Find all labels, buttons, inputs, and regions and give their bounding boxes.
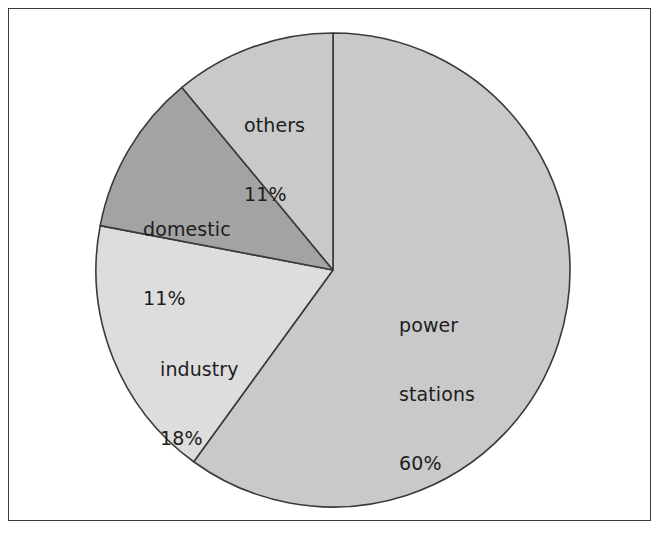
slice-value-industry: 18% — [160, 427, 239, 450]
slice-label-power-stations-line2: stations — [399, 383, 475, 406]
pie-chart-figure: power stations 60% industry 18% domestic… — [0, 0, 662, 543]
slice-value-domestic: 11% — [143, 287, 231, 310]
slice-label-industry-name: industry — [160, 358, 239, 381]
slice-label-domestic: domestic 11% — [143, 172, 231, 356]
slice-label-domestic-name: domestic — [143, 218, 231, 241]
slice-label-power-stations-line1: power — [399, 314, 475, 337]
slice-value-others: 11% — [244, 183, 305, 206]
slice-label-others: others 11% — [244, 68, 305, 252]
slice-label-others-name: others — [244, 114, 305, 137]
pie-chart-graphic — [0, 0, 662, 543]
slice-value-power-stations: 60% — [399, 452, 475, 475]
slice-label-power-stations: power stations 60% — [399, 268, 475, 521]
